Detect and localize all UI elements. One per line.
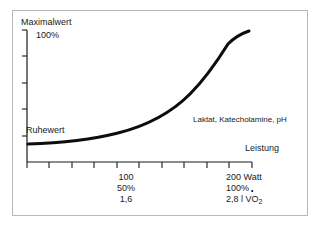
x-tick-label-group-mid: 100 50% 1,6 (96, 172, 156, 205)
y-axis-100-percent-label: 100% (36, 31, 59, 40)
x-axis-ticks (27, 162, 252, 168)
x-axis-label: Leistung (245, 144, 279, 153)
x-tick-right-vo2-subscript: 2 (259, 198, 263, 205)
y-axis-ticks (22, 30, 27, 136)
x-tick-right-watt: 200 Watt (226, 172, 300, 183)
overdot-mark (251, 190, 253, 192)
x-tick-mid-watt: 100 (96, 172, 156, 183)
v-dot-symbol: VO (246, 194, 259, 205)
curve-annotation-label: Laktat, Katecholamine, pH (193, 116, 287, 124)
x-tick-mid-vo2: 1,6 (96, 194, 156, 205)
figure-root: Maximalwert 100% Ruhewert Laktat, Katech… (0, 0, 320, 228)
x-tick-right-vo2: 2,8 l VO2 (226, 194, 300, 205)
x-tick-mid-percent: 50% (96, 183, 156, 194)
y-axis-max-label: Maximalwert (21, 18, 72, 27)
y-axis-resting-value-label: Ruhewert (26, 126, 65, 135)
x-tick-right-percent: 100% (226, 183, 300, 194)
x-tick-right-vo2-value: 2,8 l (226, 194, 243, 204)
x-tick-right-vo2-symbol: VO (246, 194, 259, 204)
x-tick-label-group-right: 200 Watt 100% 2,8 l VO2 (226, 172, 300, 205)
